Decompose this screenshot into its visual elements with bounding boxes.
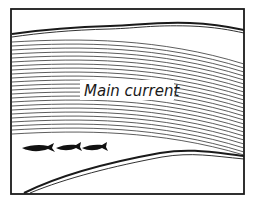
upper-bank	[12, 23, 244, 37]
lower-bank	[24, 151, 244, 193]
frame-border	[11, 9, 244, 194]
main-current-label: Main current	[84, 82, 180, 100]
fish-group	[22, 142, 108, 152]
fish-icon	[22, 143, 55, 152]
fish-icon	[56, 142, 82, 151]
diagram-canvas: Main current	[0, 0, 264, 210]
river-current-diagram: Main current	[0, 0, 264, 210]
fish-icon	[82, 142, 108, 151]
